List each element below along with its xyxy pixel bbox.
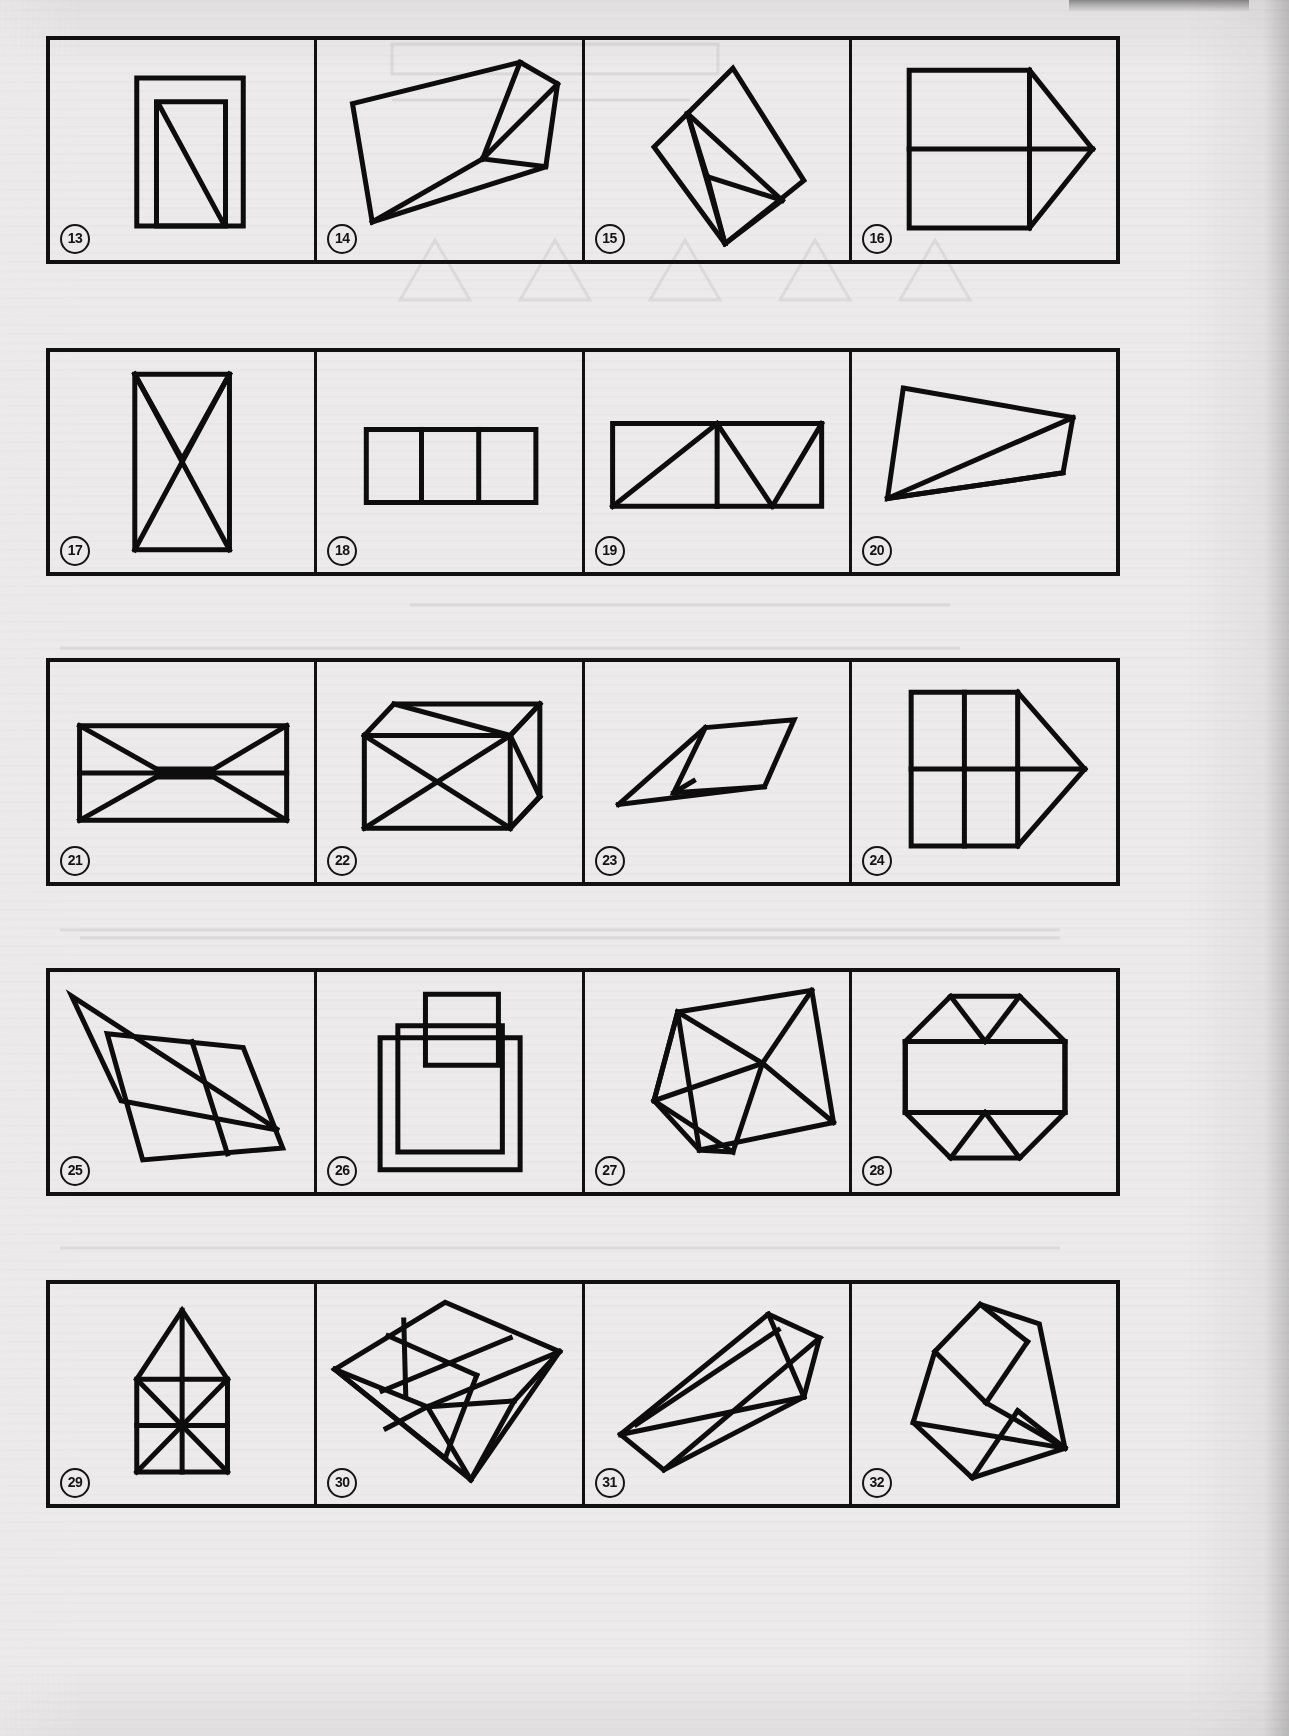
figure-row: 13141516 [46,36,1120,264]
figure-stroke [214,777,287,820]
figure-cell-25[interactable]: 25 [50,972,317,1192]
figure-stroke [620,1314,819,1470]
figure-stroke [135,374,182,459]
figure-stroke [887,388,1072,498]
figure-stroke [382,1338,510,1391]
figure-stroke [511,704,541,736]
figure-row: 29303132 [46,1280,1120,1508]
figure-cell-22[interactable]: 22 [317,662,584,882]
figure-cell-23[interactable]: 23 [585,662,852,882]
figure-stroke [717,424,772,507]
figure-stroke [335,1369,428,1406]
figure-cell-19[interactable]: 19 [585,352,852,572]
figure-stroke [699,1150,733,1152]
figure-stroke [483,159,546,167]
figure-23 [585,662,849,882]
figure-stroke [511,797,541,829]
figure-28 [852,972,1116,1192]
figure-stroke [636,1330,778,1425]
figure-cell-28[interactable]: 28 [852,972,1116,1192]
figure-number-17: 17 [60,536,90,566]
figure-number-32: 32 [862,1468,892,1498]
figure-number-23: 23 [595,846,625,876]
figure-number-27: 27 [595,1156,625,1186]
figure-stroke [986,1342,1027,1403]
figure-stroke [725,200,782,243]
figure-row: 21222324 [46,658,1120,886]
figure-stroke [985,996,1020,1041]
figure-13 [50,40,314,260]
figure-number-25: 25 [60,1156,90,1186]
figure-stroke [182,374,229,459]
figure-stroke [158,104,223,224]
figure-cell-21[interactable]: 21 [50,662,317,882]
top-edge-scan-artifact [1069,0,1249,12]
scanned-test-page: 13141516 17181920 21222324 25262728 2930… [0,0,1289,1736]
figure-cell-31[interactable]: 31 [585,1284,852,1504]
figure-cell-16[interactable]: 16 [852,40,1116,260]
figure-stroke [1017,692,1084,769]
figure-cell-20[interactable]: 20 [852,352,1116,572]
figure-21 [50,662,314,882]
figure-stroke [950,996,985,1041]
figure-number-28: 28 [862,1156,892,1186]
figure-32 [852,1284,1116,1504]
figure-stroke [772,424,821,507]
figure-number-19: 19 [595,536,625,566]
figure-stroke [654,68,804,244]
figure-cell-27[interactable]: 27 [585,972,852,1192]
figure-stroke [80,726,157,769]
figure-cell-15[interactable]: 15 [585,40,852,260]
figure-18 [317,352,581,572]
figure-stroke [80,777,157,820]
figure-27 [585,972,849,1192]
figure-stroke [426,994,499,1065]
figure-cell-13[interactable]: 13 [50,40,317,260]
figure-stroke [905,996,1065,1158]
figure-stroke [1029,149,1092,228]
figure-number-15: 15 [595,224,625,254]
figure-31 [585,1284,849,1504]
figure-stroke [762,990,811,1063]
figure-24 [852,662,1116,882]
figure-stroke [353,62,558,222]
figure-cell-30[interactable]: 30 [317,1284,584,1504]
figure-number-20: 20 [862,536,892,566]
figure-stroke [1017,769,1084,846]
figure-cell-14[interactable]: 14 [317,40,584,260]
figure-16 [852,40,1116,260]
figure-number-13: 13 [60,224,90,254]
figure-stroke [445,1375,477,1458]
figure-stroke [511,736,541,797]
figure-stroke [1029,70,1092,149]
figure-20 [852,352,1116,572]
figure-number-29: 29 [60,1468,90,1498]
figure-stroke [677,990,833,1150]
figure-stroke [192,1042,227,1154]
figure-cell-29[interactable]: 29 [50,1284,317,1504]
figure-number-24: 24 [862,846,892,876]
figure-number-16: 16 [862,224,892,254]
figure-stroke [950,1113,985,1158]
figure-25 [50,972,314,1192]
figure-cell-18[interactable]: 18 [317,352,584,572]
figure-cell-24[interactable]: 24 [852,662,1116,882]
figure-14 [317,40,581,260]
figure-stroke [483,62,520,159]
figure-cell-26[interactable]: 26 [317,972,584,1192]
figure-stroke [398,1026,503,1152]
figure-number-21: 21 [60,846,90,876]
figure-22 [317,662,581,882]
figure-stroke [612,424,717,507]
figure-19 [585,352,849,572]
figure-stroke [985,1113,1020,1158]
figure-cell-32[interactable]: 32 [852,1284,1116,1504]
figure-26 [317,972,581,1192]
figure-row: 25262728 [46,968,1120,1196]
figure-stroke [935,1352,986,1403]
figure-17 [50,352,314,572]
figure-cell-17[interactable]: 17 [50,352,317,572]
figure-row: 17181920 [46,348,1120,576]
figure-stroke [471,1401,514,1480]
figure-stroke [654,1063,762,1100]
